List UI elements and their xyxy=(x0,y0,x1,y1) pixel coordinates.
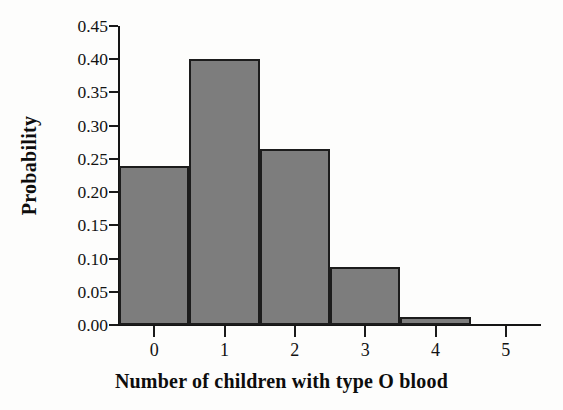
y-axis-tick-mark xyxy=(109,58,118,60)
plot-area xyxy=(119,26,541,325)
x-axis-tick-label: 0 xyxy=(150,340,159,361)
y-axis-tick-label: 0.45 xyxy=(77,16,108,37)
y-axis-title: Probability xyxy=(0,0,60,330)
x-axis-tick-label: 4 xyxy=(431,340,440,361)
y-axis-tick-label: 0.10 xyxy=(77,248,108,269)
y-axis-tick-mark xyxy=(109,291,118,293)
x-axis-title: Number of children with type O blood xyxy=(0,370,563,393)
x-axis-tick-mark xyxy=(435,326,437,337)
y-axis-tick-label: 0.15 xyxy=(77,215,108,236)
y-axis-tick-mark xyxy=(109,224,118,226)
y-axis-tick-label: 0.25 xyxy=(77,148,108,169)
y-axis-tick-label: 0.05 xyxy=(77,281,108,302)
bar xyxy=(260,149,330,325)
y-axis-tick-mark xyxy=(109,191,118,193)
bar xyxy=(119,166,189,325)
probability-histogram-figure: Probability 0.000.050.100.150.200.250.30… xyxy=(0,0,563,410)
y-axis-tick-mark xyxy=(109,125,118,127)
y-axis-tick-labels: 0.000.050.100.150.200.250.300.350.400.45 xyxy=(52,0,108,410)
x-axis-tick-label: 1 xyxy=(220,340,229,361)
y-axis-title-text: Probability xyxy=(19,115,42,215)
y-axis-tick-label: 0.20 xyxy=(77,182,108,203)
y-axis-tick-label: 0.40 xyxy=(77,49,108,70)
y-axis-tick-mark xyxy=(109,324,118,326)
x-axis-tick-mark xyxy=(505,326,507,337)
y-axis-tick-mark xyxy=(109,25,118,27)
x-axis-tick-mark xyxy=(224,326,226,337)
y-axis-tick-mark xyxy=(109,91,118,93)
x-axis-tick-mark xyxy=(294,326,296,337)
x-axis-tick-mark xyxy=(364,326,366,337)
x-axis-tick-mark xyxy=(153,326,155,337)
y-axis-tick-label: 0.35 xyxy=(77,82,108,103)
x-axis-tick-label: 5 xyxy=(501,340,510,361)
x-axis-tick-label: 2 xyxy=(290,340,299,361)
x-axis-tick-label: 3 xyxy=(361,340,370,361)
bar xyxy=(189,59,259,325)
y-axis-tick-label: 0.00 xyxy=(77,315,108,336)
y-axis-tick-mark xyxy=(109,158,118,160)
bar xyxy=(330,267,400,325)
bar xyxy=(400,317,470,325)
y-axis-tick-label: 0.30 xyxy=(77,115,108,136)
y-axis-tick-mark xyxy=(109,258,118,260)
